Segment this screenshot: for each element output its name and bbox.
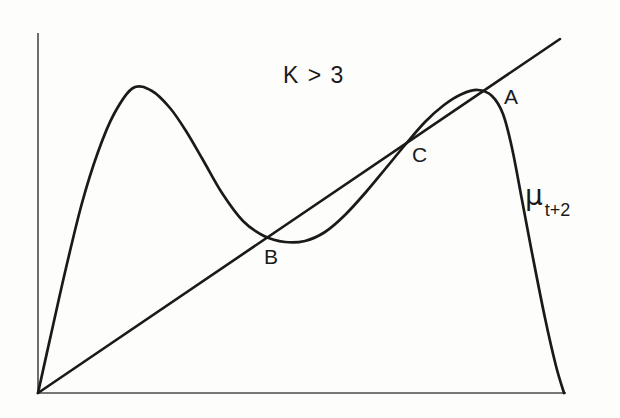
curve-label: μt+2	[525, 182, 568, 214]
mu-symbol: μ	[525, 179, 543, 212]
mu-t-plus-2-curve	[38, 86, 564, 393]
identity-diagonal-line	[38, 39, 560, 393]
condition-label: K > 3	[283, 64, 345, 87]
point-label-b: B	[264, 246, 278, 267]
mu-subscript: t+2	[545, 200, 571, 220]
point-label-c: C	[412, 144, 427, 165]
figure-panel: K > 3 A B C μt+2	[0, 0, 620, 418]
point-label-a: A	[504, 86, 518, 107]
